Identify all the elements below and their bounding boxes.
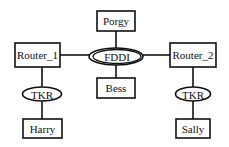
- node-router1: Router_1: [15, 43, 60, 67]
- node-tkr-left: TKR: [23, 87, 62, 101]
- node-porgy: Porgy: [97, 11, 135, 31]
- node-bess: Bess: [97, 78, 135, 98]
- node-router2-label: Router_2: [173, 49, 214, 61]
- node-tkr-right: TKR: [176, 87, 211, 101]
- node-bess-label: Bess: [106, 82, 127, 94]
- node-fddi: FDDI: [89, 48, 143, 65]
- node-harry-label: Harry: [30, 123, 56, 135]
- node-router1-label: Router_1: [17, 49, 58, 61]
- node-porgy-label: Porgy: [103, 15, 130, 27]
- node-harry: Harry: [23, 119, 62, 138]
- node-tkr-left-label: TKR: [31, 89, 54, 101]
- node-sally: Sally: [176, 119, 210, 138]
- node-tkr-right-label: TKR: [182, 89, 205, 101]
- node-sally-label: Sally: [182, 123, 205, 135]
- node-fddi-label: FDDI: [104, 51, 130, 63]
- node-router2: Router_2: [170, 43, 216, 67]
- network-diagram: Porgy FDDI Bess Router_1 Router_2 TKR TK…: [0, 0, 229, 147]
